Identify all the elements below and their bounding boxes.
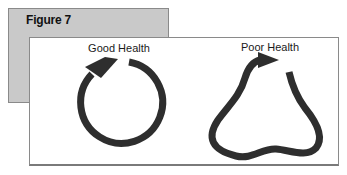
poor-health-distorted-arrow-icon: [212, 52, 320, 157]
good-health-circle-arrow-icon: [81, 57, 163, 143]
health-cycle-diagram: [0, 0, 347, 175]
